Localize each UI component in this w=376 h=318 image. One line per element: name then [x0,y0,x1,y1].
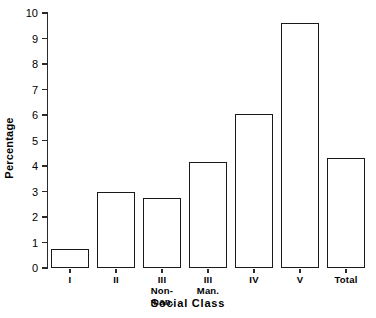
y-axis-tick-label: 1 [32,235,38,251]
x-axis-tick-mark [161,269,162,273]
x-axis-category-label: Total [323,274,369,285]
y-axis-tick-label: 10 [26,5,38,21]
bar [51,249,89,268]
y-axis-tick-label: 8 [32,56,38,72]
x-axis-tick-mark [115,269,116,273]
bar [281,23,319,268]
category-label-line1: IV [249,274,258,285]
y-axis-title-text: Percentage [3,117,15,178]
bar [97,192,135,269]
y-axis-tick-label: 4 [32,158,38,174]
x-axis-category-label: IV [231,274,277,285]
x-axis-tick-mark [253,269,254,273]
x-axis-tick-mark [345,269,346,273]
category-label-line1: II [113,274,119,285]
category-label-line1: Total [335,274,358,285]
y-axis-tick-label: 0 [32,260,38,276]
category-label-line1: I [69,274,72,285]
bar [189,162,227,268]
x-axis-category-label: II [93,274,139,285]
y-axis-tick-label: 3 [32,184,38,200]
y-axis-tick-label: 9 [32,31,38,47]
x-axis-tick-mark [299,269,300,273]
y-axis-tick-label: 2 [32,209,38,225]
x-axis-tick-mark [69,269,70,273]
x-axis-title: Social Class [0,297,376,309]
category-label-line2: Man. [185,285,231,296]
x-axis-tick-mark [207,269,208,273]
y-axis-title: Percentage [0,88,18,208]
plot-area [47,13,369,268]
y-axis-tick-label: 6 [32,107,38,123]
y-axis-tick-label: 5 [32,133,38,149]
x-axis-category-label: IIIMan. [185,274,231,296]
y-axis-tick-label: 7 [32,82,38,98]
bar [327,158,365,268]
category-label-line1: III [204,274,213,285]
bar-chart: Percentage 012345678910 IIIIIINon-man.II… [0,0,376,318]
x-axis-category-label: V [277,274,323,285]
bar [143,198,181,268]
x-axis-category-label: I [47,274,93,285]
category-label-line1: V [297,274,304,285]
category-label-line1: III [158,274,167,285]
bar [235,114,273,268]
